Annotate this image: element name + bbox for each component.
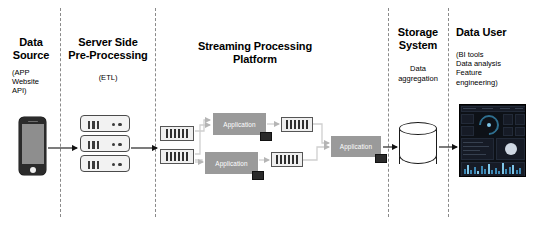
dashboard-header-text: [482, 108, 493, 109]
dashboard-bar: [470, 170, 472, 174]
dashboard-row: [463, 142, 483, 143]
dashboard-bar: [516, 170, 518, 174]
application-box-top[interactable]: Application: [213, 113, 266, 135]
divider-3: [388, 8, 389, 217]
database-top-ellipse: [399, 122, 437, 135]
wire-queue-out-top-to-application-final: [313, 124, 329, 143]
connector-arrows: [0, 0, 534, 225]
dashboard-row: [463, 150, 480, 151]
application-box-top-label: Application: [223, 121, 255, 128]
wire-queue-out-bottom-to-application-final: [303, 147, 329, 160]
bi-dashboard-image: [459, 104, 526, 177]
dashboard-bar: [474, 167, 476, 174]
dashboard-bar: [488, 164, 490, 174]
dashboard-bar: [477, 171, 479, 174]
dashboard-row: [463, 154, 486, 155]
section-title-data-source-line1: Data: [6, 36, 56, 49]
section-title-streaming-line2: Platform: [181, 53, 329, 66]
wire-queue-top-to-application-top: [195, 120, 210, 131]
section-subtitle-server-side-line1: (ETL): [62, 73, 154, 82]
server-leds-icon: [112, 123, 122, 127]
dashboard-gauge-center: [487, 123, 491, 127]
queue-icon-out-bottom: [271, 152, 303, 167]
server-unit: [80, 115, 130, 132]
divider-4: [448, 8, 449, 217]
section-subtitle-data-user-line2: Data analysis: [456, 59, 501, 68]
dashboard-kpi-tile: [461, 114, 474, 124]
dashboard-bar: [505, 169, 507, 174]
application-box-final[interactable]: Application: [331, 136, 381, 157]
application-final-badge-icon: [375, 154, 387, 163]
application-bottom-badge-icon: [252, 171, 264, 180]
dashboard-kpi-tile: [515, 114, 525, 125]
divider-1: [60, 8, 61, 217]
dashboard-bar: [464, 169, 466, 174]
smartphone-icon: [19, 117, 46, 175]
database-bottom: [399, 146, 437, 164]
dashboard-header-text: [500, 108, 510, 109]
database-cylinder-icon: [399, 122, 437, 170]
dashboard-bar: [519, 168, 521, 174]
dashboard-kpi-tile: [515, 127, 525, 136]
section-title-server-side-line1: Server Side: [62, 36, 154, 49]
dashboard-bar: [509, 167, 511, 174]
server-slots-icon: [88, 121, 99, 129]
dashboard-row: [463, 146, 489, 147]
section-subtitle-storage-line2: aggregation: [388, 74, 448, 83]
section-subtitle-data-source-line3: API): [12, 86, 27, 95]
dashboard-bar: [502, 163, 504, 174]
section-subtitle-storage-line1: Data: [390, 64, 446, 73]
divider-2: [155, 8, 156, 217]
dashboard-bar: [484, 169, 486, 174]
section-title-storage-line1: Storage: [390, 26, 446, 39]
dashboard-header-text: [463, 108, 476, 109]
phone-screen: [22, 124, 44, 164]
diagram-canvas: Data Source (APP Website API) Server Sid…: [0, 0, 534, 225]
section-title-storage-line2: System: [390, 39, 446, 52]
dashboard-bar: [491, 170, 493, 174]
queue-icon-out-top: [281, 117, 313, 132]
server-leds-icon: [112, 163, 122, 167]
section-subtitle-data-source-line2: Website: [12, 77, 39, 86]
application-box-bottom[interactable]: Application: [205, 152, 258, 174]
section-subtitle-data-user-line1: (BI tools: [456, 50, 484, 59]
server-rack-icon: [80, 115, 130, 172]
application-top-badge-icon: [260, 132, 272, 141]
dashboard-bar: [512, 165, 514, 174]
server-slots-icon: [88, 141, 99, 149]
queue-icon-in-top: [160, 126, 194, 141]
server-leds-icon: [112, 143, 122, 147]
dashboard-bar: [498, 171, 500, 174]
dashboard-kpi-tile: [461, 126, 474, 136]
server-slots-icon: [88, 161, 99, 169]
dashboard-bar: [495, 168, 497, 174]
dashboard-bar: [467, 165, 469, 174]
queue-icon-in-bottom: [160, 149, 194, 164]
server-unit: [80, 135, 130, 152]
dashboard-donut-chart: [505, 143, 517, 155]
dashboard-kpi-tile: [503, 127, 513, 136]
application-box-bottom-label: Application: [215, 160, 247, 167]
phone-home-button-icon: [30, 167, 36, 173]
section-title-streaming-line1: Streaming Processing: [181, 40, 329, 53]
phone-speaker-icon: [28, 121, 38, 123]
section-subtitle-data-user-line3: Feature: [456, 68, 482, 77]
wire-queue-bottom-to-application-top: [195, 125, 210, 154]
section-title-data-user-line1: Data User: [456, 26, 506, 39]
server-unit: [80, 155, 130, 172]
application-box-final-label: Application: [340, 143, 372, 150]
dashboard-kpi-tile: [503, 114, 513, 125]
section-title-data-source-line2: Source: [6, 49, 56, 62]
wire-queue-bottom-to-application-bottom: [195, 160, 202, 163]
dashboard-bar: [481, 166, 483, 174]
section-subtitle-data-user-line4: engineering): [456, 78, 498, 87]
section-subtitle-data-source-line1: (APP: [12, 68, 30, 77]
section-title-server-side-line2: Pre-Processing: [61, 49, 155, 62]
dashboard-header-text: [515, 108, 523, 109]
